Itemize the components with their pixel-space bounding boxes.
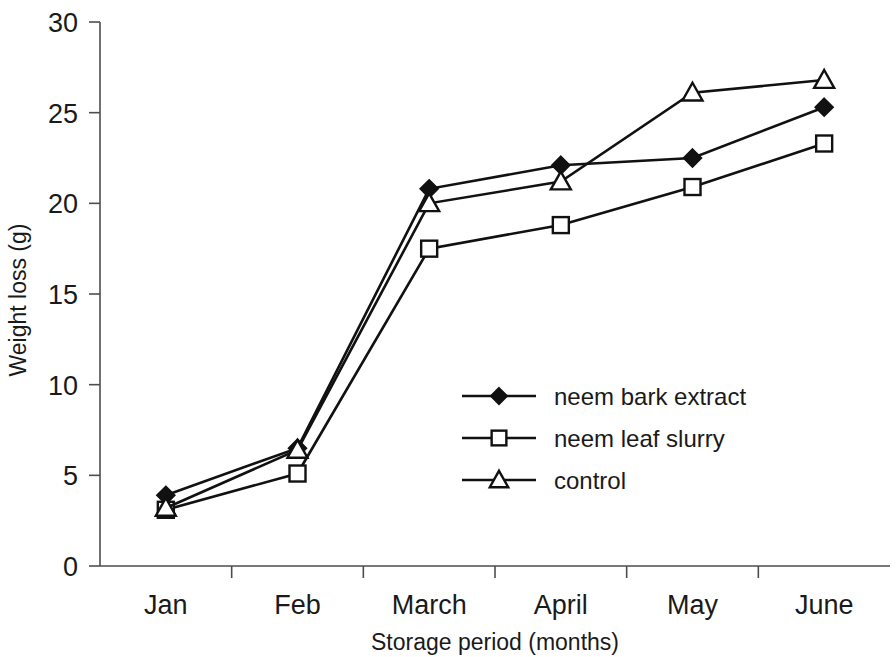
chart-canvas: 051015202530 JanFebMarchAprilMayJune nee…	[0, 0, 896, 657]
y-tick-label: 10	[48, 371, 78, 401]
y-tick-label: 5	[63, 461, 78, 491]
legend-label: neem leaf slurry	[554, 425, 725, 452]
x-tick-label: March	[392, 590, 467, 620]
marker-open-square	[685, 179, 701, 195]
x-tick-label-group: JanFebMarchAprilMayJune	[144, 590, 853, 620]
legend-label: control	[554, 467, 626, 494]
y-tick-label: 20	[48, 189, 78, 219]
series-control	[156, 70, 834, 516]
x-axis: JanFebMarchAprilMayJune	[100, 566, 890, 620]
series-line	[166, 143, 824, 509]
y-axis: 051015202530	[48, 8, 100, 582]
marker-filled-diamond	[684, 149, 702, 167]
marker-open-square	[553, 217, 569, 233]
y-tick-group	[89, 22, 100, 566]
x-axis-title: Storage period (months)	[371, 629, 619, 655]
x-tick-group	[232, 566, 759, 578]
marker-open-square	[816, 135, 832, 151]
y-tick-label-group: 051015202530	[48, 8, 78, 582]
marker-open-square	[421, 241, 437, 257]
y-tick-label: 0	[63, 552, 78, 582]
legend-item-neem-bark-extract: neem bark extract	[462, 383, 746, 410]
chart-legend: neem bark extractneem leaf slurrycontrol	[462, 383, 746, 494]
x-tick-label: Feb	[274, 590, 321, 620]
y-tick-label: 25	[48, 99, 78, 129]
marker-open-square	[492, 431, 507, 446]
line-chart: 051015202530 JanFebMarchAprilMayJune nee…	[0, 0, 896, 657]
legend-item-neem-leaf-slurry: neem leaf slurry	[462, 425, 725, 452]
y-tick-label: 15	[48, 280, 78, 310]
x-tick-label: May	[667, 590, 719, 620]
x-tick-label: April	[534, 590, 588, 620]
y-axis-title: Weight loss (g)	[5, 224, 31, 377]
marker-filled-diamond	[491, 388, 508, 405]
x-tick-label: Jan	[144, 590, 188, 620]
y-tick-label: 30	[48, 8, 78, 38]
marker-open-square	[290, 466, 306, 482]
series-layer	[156, 70, 834, 518]
x-tick-label: June	[795, 590, 854, 620]
marker-filled-diamond	[815, 98, 833, 116]
legend-label: neem bark extract	[554, 383, 746, 410]
marker-open-triangle	[814, 70, 834, 88]
marker-open-triangle	[551, 172, 571, 190]
legend-item-control: control	[462, 467, 626, 494]
